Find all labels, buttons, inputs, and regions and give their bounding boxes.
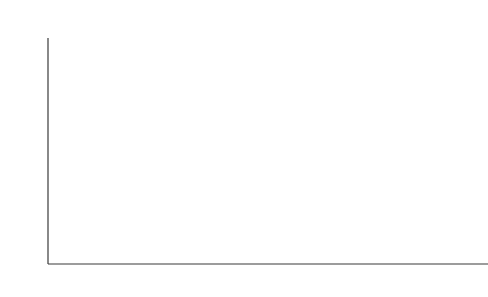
historical-stacked-area bbox=[0, 0, 488, 297]
energy-mix-stacked-chart bbox=[0, 0, 488, 297]
